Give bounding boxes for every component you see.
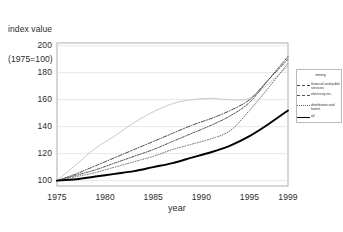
legend-line-swatch (297, 102, 310, 109)
legend-line-swatch (297, 92, 310, 99)
legend-line-swatch (297, 73, 310, 80)
x-axis-tick-label: 1985 (136, 192, 170, 202)
legend-item: mining (297, 73, 343, 80)
legend-item-label: electricity etc. (311, 92, 332, 97)
legend: miningfinancial and public serviceselect… (296, 69, 342, 123)
legend-line-swatch (297, 114, 310, 121)
legend-item: financial and public services (297, 82, 343, 91)
legend-item-label: distribution and hotels (311, 102, 343, 111)
y-axis-tick-label: 100 (24, 175, 52, 185)
x-axis-tick-label: 1995 (233, 192, 267, 202)
legend-line-swatch (297, 82, 310, 89)
legend-item: all (297, 114, 343, 121)
y-axis-tick-label: 160 (24, 94, 52, 104)
y-axis-tick-label: 140 (24, 121, 52, 131)
x-axis-tick-label: 1999 (271, 192, 305, 202)
y-axis-tick-label: 180 (24, 67, 52, 77)
plot-frame (57, 43, 288, 186)
legend-item-label: financial and public services (311, 82, 343, 91)
y-axis-tick-label: 200 (24, 40, 52, 50)
y-axis-tick-label: 120 (24, 148, 52, 158)
line-chart: index value (1975=100) year miningfinanc… (0, 0, 343, 232)
legend-item: distribution and hotels (297, 102, 343, 111)
legend-item: electricity etc. (297, 92, 343, 99)
legend-item-label: all (311, 114, 314, 119)
x-axis-tick-label: 1990 (184, 192, 218, 202)
x-axis-tick-label: 1975 (40, 192, 74, 202)
x-axis-tick-label: 1980 (88, 192, 122, 202)
